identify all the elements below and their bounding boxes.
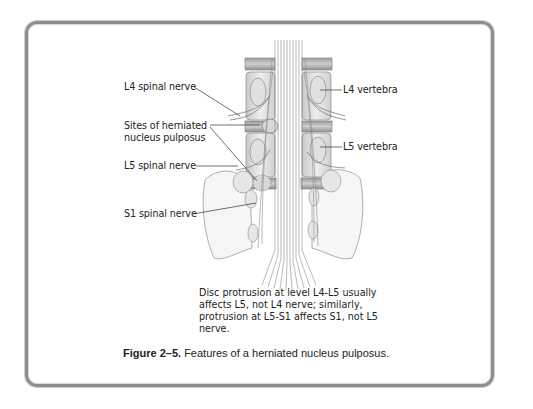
label-sites-line1: Sites of herniated	[124, 120, 207, 132]
figure-number: Figure 2–5.	[123, 347, 181, 359]
figure-caption: Figure 2–5. Features of a herniated nucl…	[123, 347, 423, 360]
label-sites-line2: nucleus pulposus	[124, 132, 205, 144]
label-l4-spinal-nerve: L4 spinal nerve	[124, 81, 196, 93]
clinical-note: Disc protrusion at level L4-L5 usually a…	[199, 287, 389, 335]
label-l5-vertebra: L5 vertebra	[343, 141, 398, 153]
vertebrae-right	[301, 58, 332, 189]
label-s1-spinal-nerve: S1 spinal nerve	[124, 208, 197, 220]
label-l4-vertebra: L4 vertebra	[343, 84, 398, 96]
figure-title: Features of a herniated nucleus pulposus…	[184, 347, 389, 359]
label-l5-spinal-nerve: L5 spinal nerve	[124, 160, 196, 172]
